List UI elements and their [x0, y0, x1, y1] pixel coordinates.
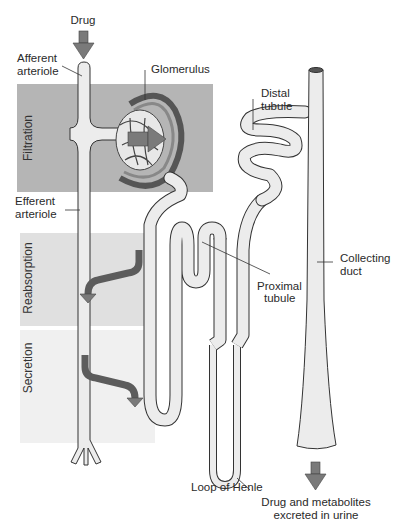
proximal-tubule-label-line2: tubule: [264, 292, 295, 304]
afferent-arteriole-label-line1: Afferent: [17, 52, 58, 64]
loop-of-henle: [213, 200, 262, 485]
reabsorption-label: Reabsorption: [21, 242, 35, 313]
drug-input-arrow: [73, 31, 94, 59]
afferent-arteriole-label-line2: arteriole: [17, 65, 59, 77]
drug-label: Drug: [71, 14, 96, 26]
efferent-arteriole-label-line1: Efferent: [15, 195, 56, 207]
secretion-label: Secretion: [21, 343, 35, 394]
loop-of-henle-label: Loop of Henle: [191, 481, 263, 493]
collecting-duct-label-line1: Collecting: [340, 252, 391, 264]
nephron-diagram: Filtration Reabsorption Secretion: [0, 0, 405, 527]
distal-tubule-label-line2: tubule: [261, 100, 292, 112]
filtration-label: Filtration: [21, 115, 35, 161]
collecting-duct: [297, 68, 336, 449]
urine-output-arrow: [305, 462, 326, 490]
urine-output-label-line1: Drug and metabolites: [261, 496, 371, 508]
glomerulus-label: Glomerulus: [151, 63, 210, 75]
distal-tubule-label-line1: Distal: [261, 87, 290, 99]
efferent-arteriole-label-line2: arteriole: [15, 208, 57, 220]
proximal-tubule-label-line1: Proximal: [257, 280, 302, 292]
collecting-duct-label-line2: duct: [340, 265, 363, 277]
urine-output-label-line2: excreted in urine: [273, 509, 358, 521]
